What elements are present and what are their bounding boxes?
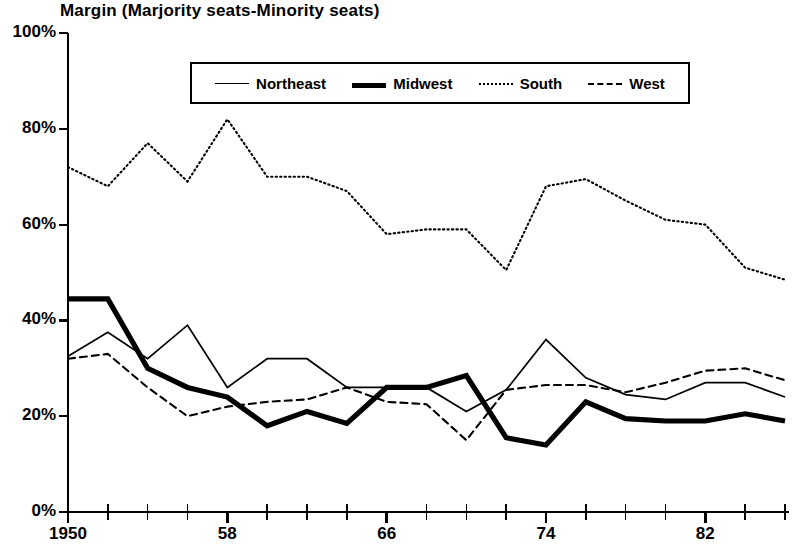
- series-line-northeast: [68, 325, 785, 411]
- series-line-west: [68, 354, 785, 440]
- chart-container: Margin (Marjority seats-Minority seats) …: [0, 0, 795, 554]
- x-axis-label: 66: [377, 524, 396, 544]
- plot-area: [0, 0, 795, 554]
- series-line-midwest: [68, 299, 785, 445]
- x-axis-label: 58: [218, 524, 237, 544]
- series-line-south: [68, 119, 785, 279]
- x-axis-label: 74: [537, 524, 556, 544]
- x-axis-label: 1950: [49, 524, 87, 544]
- x-axis-label: 82: [696, 524, 715, 544]
